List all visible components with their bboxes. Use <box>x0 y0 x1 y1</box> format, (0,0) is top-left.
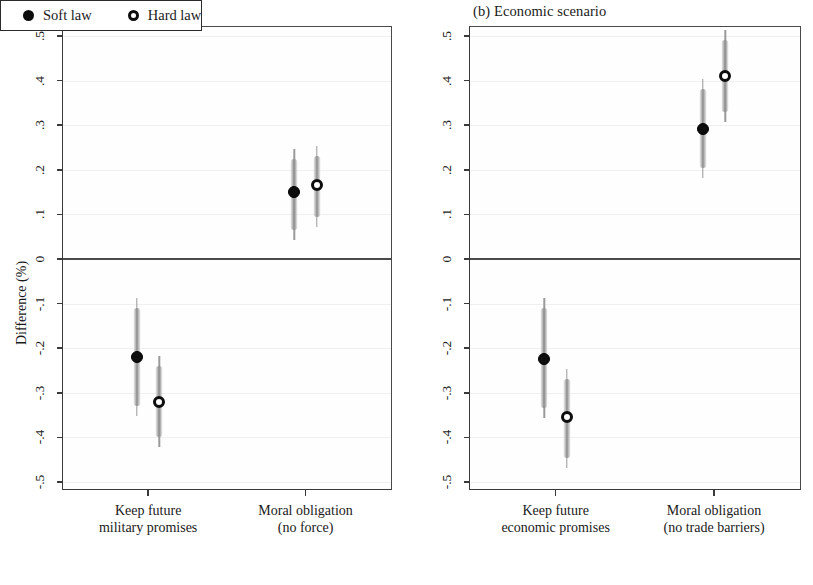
y-axis-tick-label: .1 <box>32 201 48 227</box>
y-axis-tick <box>57 481 63 483</box>
y-axis-tick-label: -.4 <box>439 424 455 450</box>
gridline <box>470 482 800 483</box>
filled-circle-icon <box>23 10 34 21</box>
data-point-hard-law <box>719 70 731 82</box>
data-point-soft-law <box>697 123 709 135</box>
category-label-line2: economic promises <box>501 519 609 536</box>
y-axis-tick-label: 0 <box>439 246 455 272</box>
gridline <box>63 214 391 215</box>
y-axis-tick-label: .3 <box>32 112 48 138</box>
panel-security-scenario: (a) Security scenario Difference (%) .5.… <box>0 0 400 585</box>
gridline <box>63 170 391 171</box>
legend-label-hard-law: Hard law <box>148 7 202 24</box>
gridline <box>470 437 800 438</box>
y-axis-tick <box>57 347 63 349</box>
data-point-hard-law <box>153 396 165 408</box>
zero-reference-line <box>470 258 800 259</box>
figure-coefficient-plots: (a) Security scenario Difference (%) .5.… <box>0 0 813 585</box>
category-label-line1: Moral obligation <box>663 502 764 519</box>
y-axis-tick <box>464 124 470 126</box>
panel-b-title: (b) Economic scenario <box>473 3 606 20</box>
hollow-circle-icon <box>128 10 139 21</box>
category-label-line1: Keep future <box>99 502 197 519</box>
panel-a-plot-area: .5.4.3.2.10-.1-.2-.3-.4-.5Keep futuremil… <box>62 26 392 490</box>
y-axis-tick-label: -.3 <box>439 380 455 406</box>
data-point-soft-law <box>288 186 300 198</box>
y-axis-tick-label: .2 <box>439 157 455 183</box>
y-axis-tick <box>57 80 63 82</box>
y-axis-tick-label: -.2 <box>439 335 455 361</box>
y-axis-tick-label: .1 <box>439 201 455 227</box>
gridline <box>63 437 391 438</box>
estimate-with-confidence-interval <box>693 79 713 177</box>
y-axis-tick-label: -.3 <box>32 380 48 406</box>
gridline <box>63 393 391 394</box>
y-axis-tick <box>464 35 470 37</box>
y-axis-tick <box>57 35 63 37</box>
y-axis-tick-label: -.2 <box>32 335 48 361</box>
y-axis-tick <box>464 169 470 171</box>
legend-label-soft-law: Soft law <box>43 7 92 24</box>
y-axis-tick <box>464 437 470 439</box>
y-axis-tick <box>464 303 470 305</box>
legend-entry-soft-law: Soft law <box>23 7 92 24</box>
y-axis-tick <box>464 258 470 260</box>
gridline <box>470 36 800 37</box>
y-axis-tick-label: -.1 <box>32 291 48 317</box>
x-axis-category-label: Keep futuremilitary promises <box>99 502 197 536</box>
y-axis-tick-label: .4 <box>32 68 48 94</box>
category-label-line2: military promises <box>99 519 197 536</box>
y-axis-tick-label: -.1 <box>439 291 455 317</box>
gridline <box>63 348 391 349</box>
gridline <box>63 81 391 82</box>
estimate-with-confidence-interval <box>307 146 327 226</box>
y-axis-tick-label: -.5 <box>439 469 455 495</box>
gridline <box>63 304 391 305</box>
x-axis-tick <box>713 489 715 496</box>
panel-b-legend: Soft law Hard law <box>0 0 202 31</box>
x-axis-tick <box>555 489 557 496</box>
category-label-line1: Keep future <box>501 502 609 519</box>
x-axis-tick <box>147 489 149 496</box>
estimate-with-confidence-interval <box>284 149 304 240</box>
y-axis-tick-label: -.4 <box>32 424 48 450</box>
category-label-line2: (no force) <box>258 519 353 536</box>
gridline <box>63 482 391 483</box>
y-axis-tick <box>57 392 63 394</box>
panel-b-plot-area: .5.4.3.2.10-.1-.2-.3-.4-.5Keep futureeco… <box>469 26 801 490</box>
gridline <box>470 170 800 171</box>
category-label-line2: (no trade barriers) <box>663 519 764 536</box>
y-axis-tick-label: 0 <box>32 246 48 272</box>
x-axis-category-label: Moral obligation(no trade barriers) <box>663 502 764 536</box>
y-axis-tick <box>57 303 63 305</box>
y-axis-tick <box>57 214 63 216</box>
estimate-with-confidence-interval <box>534 298 554 418</box>
gridline <box>470 393 800 394</box>
y-axis-tick <box>57 437 63 439</box>
estimate-with-confidence-interval <box>715 30 735 121</box>
y-axis-tick <box>57 124 63 126</box>
legend-entry-hard-law: Hard law <box>128 7 202 24</box>
y-axis-tick <box>57 258 63 260</box>
x-axis-category-label: Moral obligation(no force) <box>258 502 353 536</box>
y-axis-tick-label: -.5 <box>32 469 48 495</box>
x-axis-category-label: Keep futureeconomic promises <box>501 502 609 536</box>
y-axis-tick <box>464 80 470 82</box>
y-axis-tick-label: .2 <box>32 157 48 183</box>
y-axis-tick <box>464 481 470 483</box>
data-point-hard-law <box>311 179 323 191</box>
category-label-line1: Moral obligation <box>258 502 353 519</box>
zero-reference-line <box>63 258 391 259</box>
y-axis-tick-label: .3 <box>439 112 455 138</box>
data-point-hard-law <box>561 411 573 423</box>
data-point-soft-law <box>538 353 550 365</box>
gridline <box>470 125 800 126</box>
y-axis-tick <box>464 214 470 216</box>
y-axis-tick-label: .5 <box>439 23 455 49</box>
gridline <box>63 125 391 126</box>
gridline <box>470 214 800 215</box>
estimate-with-confidence-interval <box>557 369 577 467</box>
panel-economic-scenario: (b) Economic scenario Difference (%) .5.… <box>400 0 813 585</box>
y-axis-tick <box>464 392 470 394</box>
gridline <box>470 81 800 82</box>
